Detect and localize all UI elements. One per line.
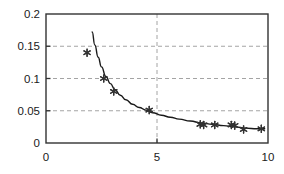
y-tick-label: 0.15 xyxy=(18,40,40,52)
y-tick-label: 0.2 xyxy=(24,8,40,20)
chart-screenshot: 00.050.10.150.2 0510 xyxy=(0,0,284,174)
x-tick-label: 5 xyxy=(154,151,160,163)
x-tick-label: 10 xyxy=(262,151,275,163)
y-tick-label: 0.05 xyxy=(18,105,40,117)
decay-curve-chart: 00.050.10.150.2 0510 xyxy=(0,0,284,174)
y-tick-label: 0.1 xyxy=(24,73,40,85)
chart-background xyxy=(0,0,284,174)
y-tick-label: 0 xyxy=(34,137,40,149)
x-tick-label: 0 xyxy=(43,151,49,163)
